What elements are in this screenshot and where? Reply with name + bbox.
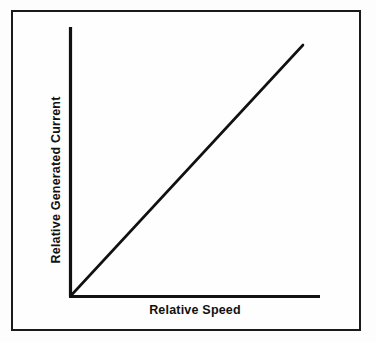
data-series-line bbox=[72, 45, 304, 295]
x-axis-label: Relative Speed bbox=[70, 303, 320, 317]
y-axis-label: Relative Generated Current bbox=[50, 96, 63, 263]
y-axis-label-wrapper: Relative Generated Current bbox=[0, 0, 64, 300]
figure-container: Relative Generated Current Relative Spee… bbox=[0, 0, 376, 342]
